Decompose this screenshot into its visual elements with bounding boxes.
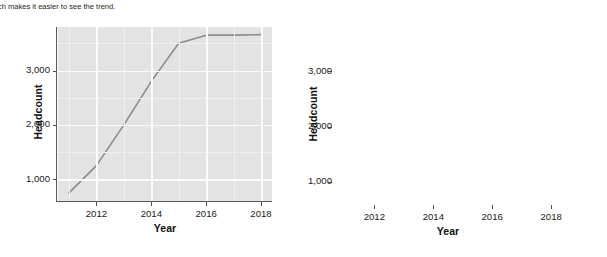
x-tick-label: 2014	[413, 211, 453, 222]
x-tick-mark	[206, 202, 207, 206]
gridline-minor-horizontal	[58, 43, 272, 44]
y-tick-label: 2,000	[286, 120, 332, 131]
y-tick-label: 1,000	[286, 175, 332, 186]
y-axis-line-left	[56, 27, 57, 202]
x-tick-mark	[433, 205, 434, 209]
figure-left: Headcount Year 1,0002,0003,000 201220142…	[0, 0, 300, 257]
x-tick-label: 2018	[241, 208, 281, 219]
series-line-left	[58, 27, 272, 201]
y-tick-mark	[53, 179, 57, 180]
gridline-major-vertical	[206, 27, 208, 201]
figure-right: Headcount Year 1,0002,0003,000 201220142…	[300, 0, 607, 257]
y-axis-title-left: Headcount	[32, 74, 44, 150]
x-tick-label: 2018	[531, 211, 571, 222]
y-tick-mark	[53, 125, 57, 126]
x-tick-mark	[551, 205, 552, 209]
x-axis-title-left: Year	[58, 222, 272, 234]
gridline-minor-vertical	[179, 27, 180, 201]
gridline-major-horizontal	[58, 71, 272, 73]
gridline-minor-vertical	[234, 27, 235, 201]
gridline-major-vertical	[151, 27, 153, 201]
x-tick-mark	[374, 205, 375, 209]
gridline-minor-horizontal	[58, 98, 272, 99]
x-axis-title-right: Year	[333, 225, 563, 237]
x-tick-label: 2016	[186, 208, 226, 219]
gridline-major-horizontal	[58, 125, 272, 127]
x-tick-mark	[261, 202, 262, 206]
y-tick-label: 2,000	[4, 118, 50, 129]
x-axis-line-left	[56, 201, 272, 202]
gridline-major-vertical	[96, 27, 98, 201]
y-axis-title-right: Headcount	[307, 76, 319, 152]
y-tick-label: 3,000	[4, 64, 50, 75]
y-tick-label: 1,000	[4, 173, 50, 184]
x-tick-label: 2012	[354, 211, 394, 222]
gridline-major-vertical	[261, 27, 263, 201]
x-tick-mark	[96, 202, 97, 206]
x-tick-label: 2012	[76, 208, 116, 219]
gridline-major-horizontal	[58, 179, 272, 181]
gridline-minor-horizontal	[58, 152, 272, 153]
plot-panel-left	[58, 27, 272, 201]
x-tick-label: 2016	[472, 211, 512, 222]
y-tick-label: 3,000	[286, 65, 332, 76]
gridline-minor-vertical	[69, 27, 70, 201]
y-tick-mark	[53, 71, 57, 72]
x-tick-mark	[492, 205, 493, 209]
x-tick-mark	[151, 202, 152, 206]
gridline-minor-vertical	[124, 27, 125, 201]
x-tick-label: 2014	[131, 208, 171, 219]
